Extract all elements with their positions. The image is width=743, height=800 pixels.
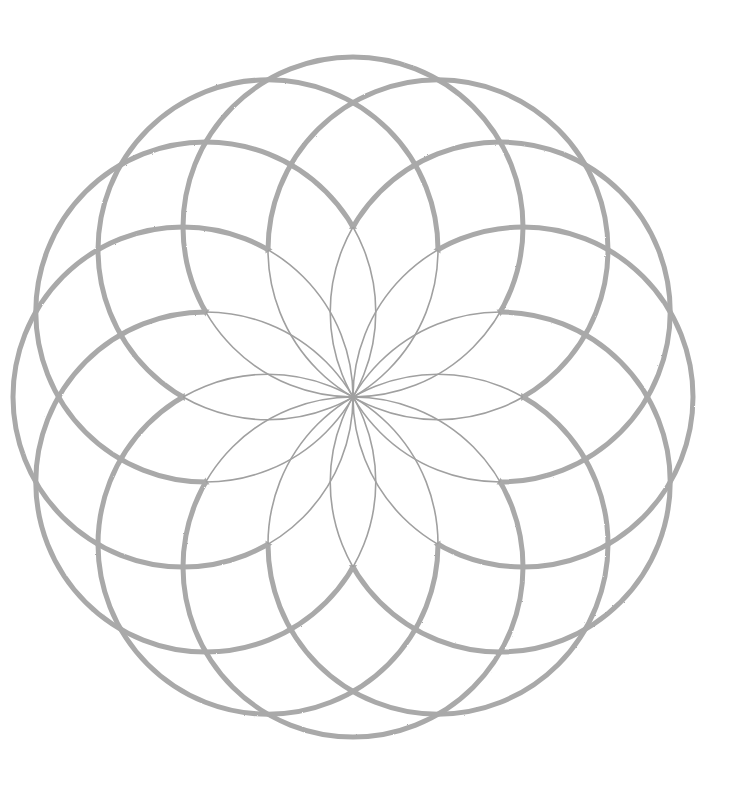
rosette-drawing [0, 0, 743, 800]
inner-thin-petals [13, 57, 693, 737]
